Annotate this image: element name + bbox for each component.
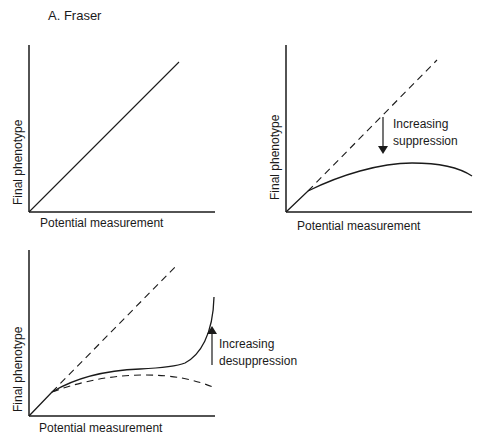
panel-3: Increasing desuppression Final phenotype… xyxy=(11,250,297,435)
x-axis-label: Potential measurement xyxy=(39,421,163,435)
panel-2: Increasing suppression Final phenotype P… xyxy=(268,45,472,233)
y-axis-label: Final phenotype xyxy=(11,326,25,412)
x-axis-label: Potential measurement xyxy=(297,219,421,233)
annotation-line-1: Increasing xyxy=(393,117,448,131)
annotation-line-2: desuppression xyxy=(219,354,297,368)
x-axis-label: Potential measurement xyxy=(40,216,164,230)
suppressed-curve xyxy=(286,163,472,212)
figure-canvas: Final phenotype Potential measurement In… xyxy=(0,0,480,439)
desuppressed-curve xyxy=(29,297,214,416)
y-axis-label: Final phenotype xyxy=(11,119,25,205)
linear-curve xyxy=(29,62,179,212)
expected-dashed-line xyxy=(52,264,178,392)
annotation-line-2: suppression xyxy=(393,134,458,148)
y-axis-label: Final phenotype xyxy=(268,114,282,200)
annotation-line-1: Increasing xyxy=(219,337,274,351)
panel-1: Final phenotype Potential measurement xyxy=(11,45,215,230)
suppressed-dashed-curve xyxy=(52,375,213,392)
